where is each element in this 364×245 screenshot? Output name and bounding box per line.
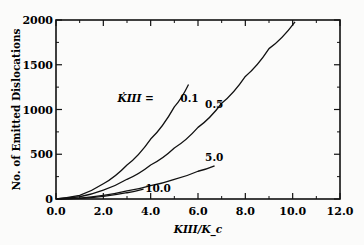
y-tick-label: 2000 <box>22 14 53 27</box>
x-tick-label: 8.0 <box>236 205 255 218</box>
line-chart: 0.02.04.06.08.010.012.00500100015002000K… <box>0 0 364 245</box>
y-axis-label: No. of Emitted Dislocations <box>10 28 22 190</box>
series-label-0-5: 0.5 <box>205 98 223 110</box>
x-axis-label: KIII/K_c <box>173 223 223 237</box>
series-label-0-1: 0.1 <box>180 92 198 104</box>
y-tick-label: 1000 <box>22 104 53 117</box>
plot-frame <box>56 20 340 199</box>
x-tick-label: 4.0 <box>141 205 160 218</box>
series-line-5-0 <box>56 166 215 199</box>
x-tick-label: 10.0 <box>279 205 306 218</box>
series-line-0-5 <box>56 22 295 199</box>
parameter-label: K̇III = <box>117 92 154 104</box>
series-label-10-0: 10.0 <box>145 182 171 194</box>
x-tick-label: 12.0 <box>327 205 354 218</box>
y-tick-label: 1500 <box>22 59 53 72</box>
x-tick-label: 0.0 <box>46 205 65 218</box>
y-tick-label: 0 <box>45 193 53 206</box>
y-tick-label: 500 <box>30 148 53 161</box>
series-label-5-0: 5.0 <box>205 151 223 163</box>
x-tick-label: 6.0 <box>188 205 207 218</box>
x-tick-label: 2.0 <box>94 205 113 218</box>
